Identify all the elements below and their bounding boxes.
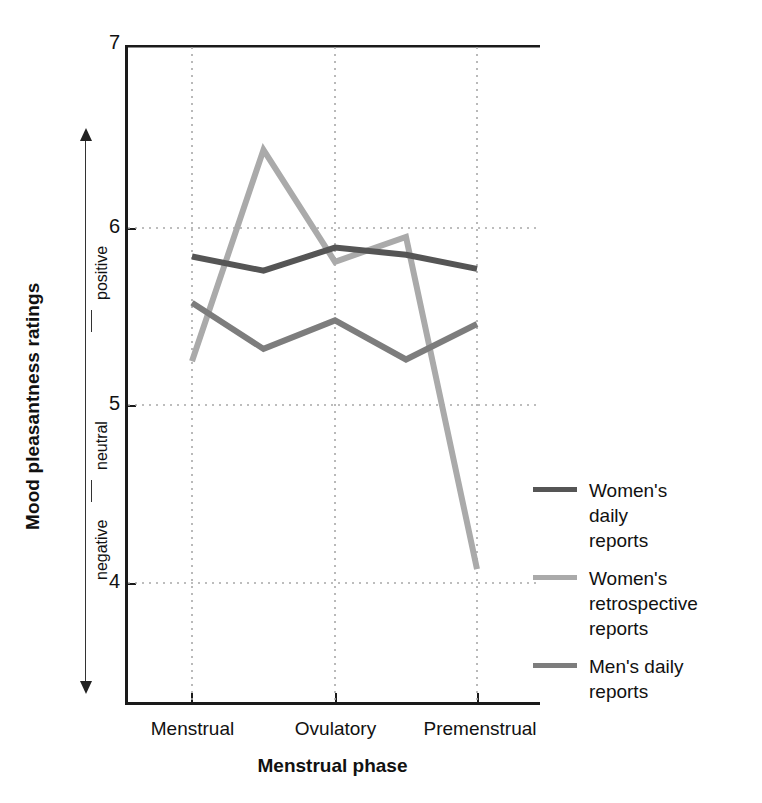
chart-legend: Women's daily reports Women's retrospect… [533, 478, 762, 703]
chart-figure: Mood pleasantness ratings positive neutr… [0, 0, 762, 803]
x-tick-label-ovulatory: Ovulatory [263, 718, 408, 740]
plot-area [125, 45, 540, 705]
valence-divider-upper [91, 310, 92, 332]
x-tick-label-premenstrual: Premenstrual [400, 718, 560, 740]
y-tick-label-7: 7 [86, 31, 120, 54]
y-axis-label-positive: positive [93, 246, 111, 300]
valence-divider-lower [91, 480, 92, 502]
y-tick-label-5: 5 [86, 392, 120, 415]
x-axis-title: Menstrual phase [125, 755, 540, 777]
series-line-mens-daily [192, 303, 477, 360]
y-axis-title: Mood pleasantness ratings [22, 283, 44, 530]
grid-horizontal [128, 228, 540, 583]
legend-label-mens-daily: Men's daily reports [589, 654, 683, 704]
series-line-womens-retrospective [192, 150, 477, 569]
legend-swatch-womens-daily [533, 487, 577, 492]
y-tick-label-4: 4 [86, 570, 120, 593]
legend-label-womens-retrospective: Women's retrospective reports [589, 566, 698, 641]
legend-swatch-womens-retrospective [533, 575, 577, 580]
legend-item-mens-daily[interactable]: Men's daily reports [533, 654, 683, 704]
legend-item-womens-daily[interactable]: Women's daily reports [533, 478, 667, 553]
legend-label-womens-daily: Women's daily reports [589, 478, 667, 553]
legend-swatch-mens-daily [533, 663, 577, 668]
x-tick-label-menstrual: Menstrual [120, 718, 265, 740]
legend-item-womens-retrospective[interactable]: Women's retrospective reports [533, 566, 698, 641]
y-axis-label-neutral: neutral [93, 421, 111, 470]
chart-canvas [125, 45, 540, 705]
y-tick-label-6: 6 [86, 215, 120, 238]
